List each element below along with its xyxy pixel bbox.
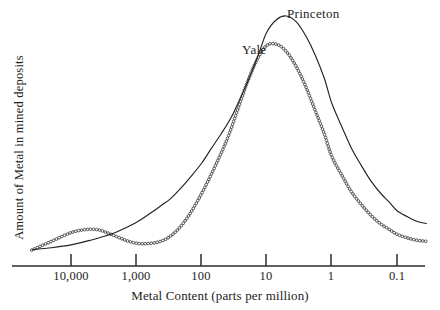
yale-marker [217,159,220,162]
yale-marker [305,86,308,89]
x-axis-tick-label: 100 [191,269,210,284]
yale-marker [39,245,42,248]
yale-marker [225,140,228,143]
yale-marker [415,239,418,242]
yale-marker [347,185,350,188]
yale-marker [413,238,416,241]
yale-marker [424,240,427,243]
yale-marker [320,125,323,128]
yale-marker [385,226,388,229]
yale-marker [308,94,311,97]
yale-marker [206,181,209,184]
yale-marker [161,239,164,242]
yale-marker [315,111,318,114]
yale-marker [198,197,201,200]
yale-marker [189,212,192,215]
yale-marker [312,105,315,108]
yale-marker [215,162,218,165]
y-axis-title: Amount of Metal in mined deposits [12,33,27,263]
yale-marker [319,122,322,125]
yale-marker [316,114,319,117]
yale-marker [322,131,325,134]
yale-marker [147,242,150,245]
yale-marker [219,154,222,157]
x-axis-tick-label: 10,000 [53,269,89,284]
yale-marker [383,225,386,228]
yale-marker [302,80,305,83]
yale-marker [223,145,226,148]
yale-marker [112,234,115,237]
yale-marker [291,59,294,62]
yale-marker [86,228,89,231]
yale-marker [339,172,342,175]
yale-marker [328,148,331,151]
x-axis-ticks [71,254,397,266]
yale-marker [50,240,53,243]
yale-marker [323,133,326,136]
yale-marker [303,83,306,86]
yale-marker [193,204,196,207]
yale-marker [74,230,77,233]
yale-marker [272,42,275,45]
yale-marker [345,182,348,185]
yale-marker [309,97,312,100]
x-axis-title: Metal Content (parts per million) [0,288,440,304]
yale-marker [218,156,221,159]
yale-marker [334,162,337,165]
yale-marker [72,231,75,234]
yale-marker [239,100,242,103]
yale-marker [150,242,153,245]
yale-marker [230,126,233,129]
yale-marker [41,244,44,247]
yale-marker [141,242,144,245]
yale-marker [311,103,314,106]
yale-marker [329,151,332,154]
yale-marker [236,109,239,112]
curve-yale-markers [30,42,427,251]
yale-marker [210,173,213,176]
yale-marker [338,169,341,172]
yale-marker [421,240,424,243]
yale-marker [44,243,47,246]
yale-marker [237,106,240,109]
yale-marker [123,239,126,242]
yale-marker [226,137,229,140]
chart-plot-area [0,0,440,310]
yale-marker [196,199,199,202]
yale-marker [98,229,101,232]
yale-marker [164,238,167,241]
yale-marker [301,78,304,81]
curves-group [30,16,427,252]
yale-marker [89,228,92,231]
yale-marker [228,131,231,134]
yale-marker [310,100,313,103]
yale-marker [224,143,227,146]
yale-marker [294,64,297,67]
yale-marker [321,128,324,131]
yale-marker [214,164,217,167]
yale-marker [55,238,58,241]
yale-marker [92,228,95,231]
curve-yale-guide [32,44,427,251]
yale-marker [331,156,334,159]
yale-marker [156,241,159,244]
yale-marker [129,241,132,244]
yale-marker [307,91,310,94]
yale-marker [118,236,121,239]
yale-marker [126,240,129,243]
yale-marker [107,232,110,235]
yale-marker [336,167,339,170]
yale-marker [296,67,299,70]
yale-marker [135,242,138,245]
yale-marker [132,241,135,244]
series-label-princeton: Princeton [287,6,340,22]
yale-marker [327,145,330,148]
yale-marker [192,207,195,210]
yale-marker [227,134,230,137]
curve-princeton [32,16,427,250]
yale-marker [398,234,401,237]
yale-marker [325,139,328,142]
yale-marker [393,231,396,234]
yale-marker [47,241,50,244]
yale-marker [115,235,118,238]
